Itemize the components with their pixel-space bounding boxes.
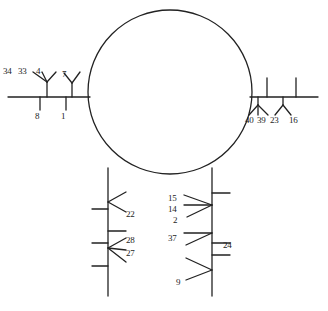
left-fork-b-arm-2 — [72, 72, 80, 83]
diagram-canvas: 34334781403923162228271514237249 — [0, 0, 328, 311]
right-fork-a-arm-3 — [258, 105, 268, 115]
label-15: 15 — [168, 194, 177, 203]
label-2: 2 — [173, 216, 177, 225]
central-circle — [88, 10, 252, 174]
label-8: 8 — [35, 112, 39, 121]
left-arrow-22-arm-1 — [108, 192, 126, 202]
left-fork-a-arm-3 — [47, 72, 56, 82]
left-arrow-22-arm-2 — [108, 202, 126, 212]
left-fork-28-arm — [108, 238, 126, 248]
right-arrow-9-arm-1 — [186, 258, 212, 270]
diagram-svg — [0, 0, 328, 311]
right-arrow-15-arm — [184, 195, 212, 205]
right-arrow-9-arm-2 — [186, 270, 212, 280]
label-22: 22 — [126, 210, 135, 219]
right-fork-b-arm-2 — [283, 105, 291, 115]
label-39: 39 — [257, 116, 266, 125]
label-4: 4 — [36, 67, 40, 76]
label-7: 7 — [62, 70, 66, 79]
label-9: 9 — [176, 278, 180, 287]
label-33: 33 — [18, 67, 27, 76]
label-23: 23 — [270, 116, 279, 125]
right-fork-b-arm-1 — [275, 105, 283, 115]
right-arrow-37-arm-2 — [186, 233, 212, 245]
label-27: 27 — [126, 249, 135, 258]
label-1: 1 — [61, 112, 65, 121]
label-16: 16 — [289, 116, 298, 125]
label-40: 40 — [245, 116, 254, 125]
label-34: 34 — [3, 67, 12, 76]
label-14: 14 — [168, 205, 177, 214]
label-28: 28 — [126, 236, 135, 245]
label-37: 37 — [168, 234, 177, 243]
right-arrow-2-arm — [187, 205, 212, 217]
label-24: 24 — [223, 241, 232, 250]
